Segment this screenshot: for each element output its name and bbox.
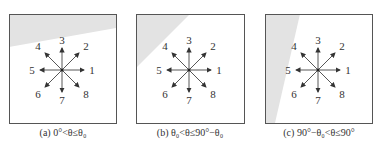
center-point <box>188 69 191 72</box>
direction-label: 6 <box>35 88 41 100</box>
direction-label: 5 <box>29 64 35 76</box>
direction-arrow-6 <box>301 70 318 87</box>
center-point <box>317 69 320 72</box>
direction-label: 7 <box>315 94 321 106</box>
direction-label: 1 <box>216 64 222 76</box>
direction-label: 3 <box>59 34 65 46</box>
direction-arrow-6 <box>172 70 189 87</box>
direction-arrow-8 <box>318 70 335 87</box>
direction-arrow-8 <box>62 70 79 87</box>
direction-label: 2 <box>83 40 89 52</box>
direction-label: 2 <box>210 40 216 52</box>
direction-label: 4 <box>162 40 168 52</box>
direction-arrow-4 <box>172 53 189 70</box>
direction-label: 6 <box>291 88 297 100</box>
direction-arrow-2 <box>62 53 79 70</box>
direction-arrow-4 <box>301 53 318 70</box>
direction-label: 8 <box>83 88 89 100</box>
center-point <box>61 69 64 72</box>
direction-label: 8 <box>210 88 216 100</box>
panel-a: 12345678 <box>9 14 117 124</box>
direction-label: 1 <box>345 64 351 76</box>
caption-b: (b) θ₀<θ≤90°−θ₀ <box>127 127 253 138</box>
direction-label: 5 <box>156 64 162 76</box>
direction-arrow-2 <box>318 53 335 70</box>
direction-label: 3 <box>315 34 321 46</box>
caption-a: (a) 0°<θ≤θ₀ <box>0 127 126 138</box>
direction-label: 1 <box>89 64 95 76</box>
direction-label: 4 <box>35 40 41 52</box>
direction-label: 2 <box>339 40 345 52</box>
direction-label: 3 <box>186 34 192 46</box>
direction-label: 7 <box>59 94 65 106</box>
panel-b: 12345678 <box>136 14 245 124</box>
caption-c: (c) 90°−θ₀<θ≤90° <box>256 127 378 138</box>
direction-label: 5 <box>285 64 291 76</box>
direction-label: 6 <box>162 88 168 100</box>
direction-label: 8 <box>339 88 345 100</box>
direction-arrow-6 <box>45 70 62 87</box>
direction-label: 4 <box>291 40 297 52</box>
direction-arrow-8 <box>189 70 206 87</box>
direction-arrow-2 <box>189 53 206 70</box>
direction-arrow-4 <box>45 53 62 70</box>
shaded-region <box>265 14 300 123</box>
panel-c: 12345678 <box>265 14 373 124</box>
direction-label: 7 <box>186 94 192 106</box>
